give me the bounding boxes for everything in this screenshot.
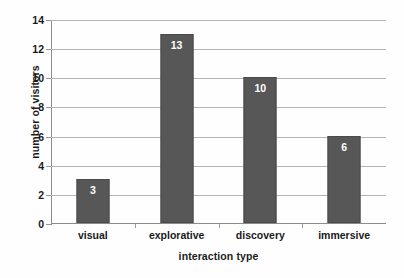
- bar[interactable]: 13: [160, 34, 193, 223]
- y-axis-tick-label: 12: [22, 44, 44, 55]
- x-axis-tick-mark: [219, 224, 220, 228]
- x-axis-tick-label: immersive: [302, 230, 386, 241]
- bar[interactable]: 3: [76, 179, 109, 223]
- x-axis-tick-label: discovery: [219, 230, 303, 241]
- bar-group: 13: [135, 19, 219, 223]
- x-axis-tick-label: explorative: [135, 230, 219, 241]
- bar-chart: number of visitors 02468101214 313106 vi…: [0, 0, 404, 278]
- x-axis-tick-mark: [302, 224, 303, 228]
- y-axis-tick-label: 2: [22, 190, 44, 201]
- y-axis-tick-label: 0: [22, 219, 44, 230]
- y-axis-tick-label: 4: [22, 160, 44, 171]
- y-axis-tick-label: 14: [22, 15, 44, 26]
- bar-group: 3: [51, 19, 135, 223]
- y-axis-tick-mark: [46, 224, 51, 225]
- y-axis-tick-labels: 02468101214: [22, 20, 44, 224]
- bar-group: 10: [219, 19, 303, 223]
- x-axis-tick-labels: visualexplorativediscoveryimmersive: [51, 230, 386, 246]
- bar-value-label: 3: [77, 185, 108, 196]
- y-axis-tick-label: 10: [22, 73, 44, 84]
- bar-group: 6: [302, 19, 386, 223]
- plot-area: 313106: [51, 20, 386, 224]
- x-axis-tick-mark: [135, 224, 136, 228]
- x-axis-title: interaction type: [51, 250, 386, 262]
- bar-value-label: 10: [245, 83, 276, 94]
- bar-value-label: 6: [329, 142, 360, 153]
- bar[interactable]: 6: [328, 136, 361, 223]
- x-axis-tick-label: visual: [51, 230, 135, 241]
- bar[interactable]: 10: [244, 77, 277, 223]
- y-axis-tick-label: 8: [22, 102, 44, 113]
- y-axis-tick-label: 6: [22, 131, 44, 142]
- bar-value-label: 13: [161, 40, 192, 51]
